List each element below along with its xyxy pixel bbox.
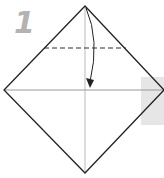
arrow-head-icon: [86, 78, 94, 88]
origami-diagram: [0, 0, 164, 178]
fold-arrow: [86, 8, 94, 82]
